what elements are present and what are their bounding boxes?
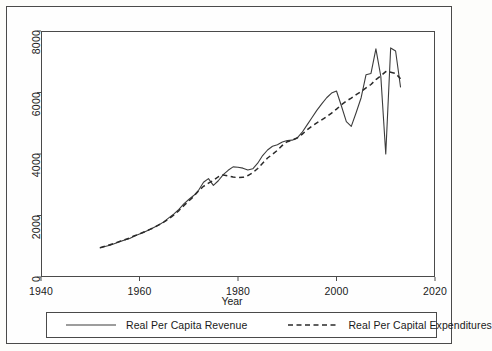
legend-label-revenue: Real Per Capita Revenue bbox=[126, 319, 247, 331]
legend-item-expenditures: Real Per Capital Expenditures bbox=[287, 313, 492, 337]
legend-solid-line-icon bbox=[65, 319, 117, 331]
legend-item-revenue: Real Per Capita Revenue bbox=[65, 313, 247, 337]
chart-legend: Real Per Capita Revenue Real Per Capital… bbox=[46, 312, 437, 338]
x-axis-title: Year bbox=[0, 295, 464, 307]
legend-dashed-line-icon bbox=[287, 319, 339, 331]
plot-frame bbox=[42, 32, 435, 277]
legend-label-expenditures: Real Per Capital Expenditures bbox=[348, 319, 492, 331]
chart-canvas bbox=[41, 31, 435, 277]
plot-area bbox=[41, 31, 435, 277]
